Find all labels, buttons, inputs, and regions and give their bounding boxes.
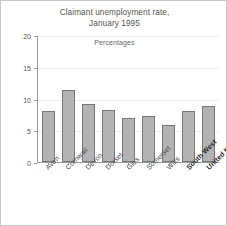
chart-figure: Claimant unemployment rate, January 1995… bbox=[0, 0, 227, 226]
y-tick-label: 15 bbox=[23, 64, 31, 71]
y-tick-mark bbox=[34, 68, 37, 69]
y-tick-label: 20 bbox=[23, 33, 31, 40]
y-tick-mark bbox=[34, 36, 37, 37]
bar-slot bbox=[159, 36, 179, 162]
bar bbox=[42, 111, 55, 162]
bar bbox=[182, 111, 195, 162]
chart-title-line-1: Claimant unemployment rate, bbox=[1, 7, 227, 18]
bar-slot bbox=[118, 36, 138, 162]
y-tick-mark bbox=[34, 163, 37, 164]
x-axis-labels: AvonCornwallDevonDorsetGlosSomersetWilts… bbox=[37, 166, 219, 224]
bar-slot bbox=[58, 36, 78, 162]
bar-series bbox=[38, 36, 219, 162]
bar-slot bbox=[38, 36, 58, 162]
bar-slot bbox=[98, 36, 118, 162]
bar bbox=[102, 110, 115, 162]
y-tick-label: 5 bbox=[27, 128, 31, 135]
y-tick-label: 0 bbox=[27, 160, 31, 167]
chart-title: Claimant unemployment rate, January 1995 bbox=[1, 7, 227, 29]
y-tick-mark bbox=[34, 100, 37, 101]
bar-slot bbox=[179, 36, 199, 162]
y-tick-label: 10 bbox=[23, 96, 31, 103]
bar-slot bbox=[78, 36, 98, 162]
y-tick-mark bbox=[34, 131, 37, 132]
bar-slot bbox=[139, 36, 159, 162]
bar bbox=[142, 116, 155, 162]
bar bbox=[62, 90, 75, 162]
chart-title-line-2: January 1995 bbox=[1, 18, 227, 29]
plot-area: 05101520 bbox=[37, 36, 219, 163]
